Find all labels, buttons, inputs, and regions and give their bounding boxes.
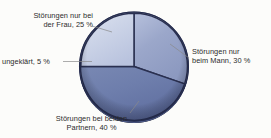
pie-rim-shading (80, 13, 188, 121)
pie-label-beide-partner: Störungen bei beiden Partnern, 40 % (30, 114, 153, 132)
pie-label-frauen: Störungen nur bei der Frau, 25 % (7, 11, 93, 29)
pie-chart-figure: Störungen nur bei der Frau, 25 % ungeklä… (0, 0, 271, 138)
pie-label-maenner: Störungen nur beim Mann, 30 % (192, 47, 269, 65)
pie-label-ungeklaert: ungeklärt, 5 % (2, 57, 69, 66)
